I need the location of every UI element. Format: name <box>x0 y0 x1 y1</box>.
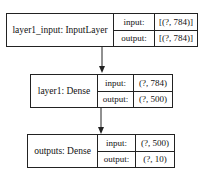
input-row: input: [(?, 784)] <box>114 14 197 30</box>
arrowhead-icon <box>98 127 104 134</box>
input-shape: [(?, 784)] <box>155 14 197 30</box>
node-label: layer1: Dense <box>31 75 98 107</box>
output-row: output: [(?, 784)] <box>114 30 197 47</box>
input-label: input: <box>98 135 136 151</box>
output-label: output: <box>98 152 136 168</box>
input-row: input: (?, 784) <box>98 75 172 91</box>
input-shape: (?, 500) <box>136 135 174 151</box>
node-label: outputs: Dense <box>28 135 98 167</box>
node-ports: input: (?, 500) output: (?, 10) <box>98 135 174 167</box>
edge-layer1_input-to-layer1 <box>99 46 105 73</box>
input-row: input: (?, 500) <box>98 135 174 151</box>
output-label: output: <box>98 92 134 108</box>
node-label: layer1_input: InputLayer <box>7 14 114 46</box>
input-label: input: <box>98 75 134 91</box>
arrowhead-icon <box>99 66 105 73</box>
node-ports: input: (?, 784) output: (?, 500) <box>98 75 172 107</box>
edge-layer1-to-outputs <box>98 107 104 134</box>
output-row: output: (?, 500) <box>98 91 172 108</box>
node-layer1-input: layer1_input: InputLayer input: [(?, 784… <box>6 13 198 47</box>
node-outputs: outputs: Dense input: (?, 500) output: (… <box>27 134 175 168</box>
output-shape: (?, 500) <box>134 92 172 108</box>
output-label: output: <box>114 31 155 47</box>
node-layer1: layer1: Dense input: (?, 784) output: (?… <box>30 74 173 108</box>
output-shape: (?, 10) <box>136 152 174 168</box>
node-ports: input: [(?, 784)] output: [(?, 784)] <box>114 14 197 46</box>
input-shape: (?, 784) <box>134 75 172 91</box>
input-label: input: <box>114 14 155 30</box>
output-row: output: (?, 10) <box>98 151 174 168</box>
output-shape: [(?, 784)] <box>155 31 197 47</box>
